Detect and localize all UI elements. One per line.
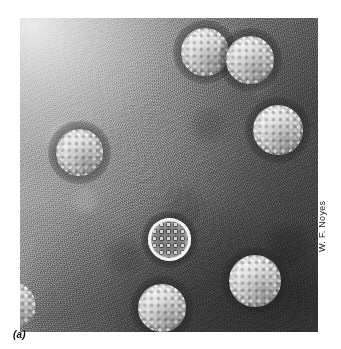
virion-top-right [226,36,274,84]
capsid-body [229,255,281,307]
virion-bottom-left-clipped [20,282,36,330]
capsid-shading [226,36,274,84]
capsid-shading [229,255,281,307]
virion-bottom-right [229,255,281,307]
capsid-body [20,282,36,330]
virion-center-empty [148,218,191,261]
virion-right [253,105,303,155]
capsid-body [253,105,303,155]
panel-label: (a) [13,330,26,340]
figure-root: (a) W. F. Noyes [0,0,341,349]
virion-left [56,129,103,176]
photo-credit: W. F. Noyes [318,172,327,252]
capsid-body [56,129,103,176]
capsid-shading [253,105,303,155]
electron-micrograph-image [20,18,318,332]
capsid-bright-rim [148,218,191,261]
capsid-body [226,36,274,84]
virion-bottom-center [138,284,186,332]
capsid-shading [138,284,186,332]
capsid-shading [56,129,103,176]
capsid-body [138,284,186,332]
